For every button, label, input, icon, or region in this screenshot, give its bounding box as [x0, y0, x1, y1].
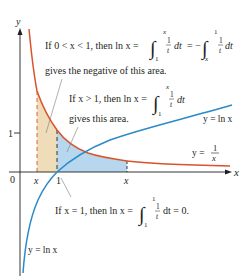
tan-shaded-area: [37, 91, 57, 172]
annotation1-int2-upper: 1: [214, 28, 218, 36]
annotation1-int1-lower: 1: [155, 55, 159, 63]
annotation2-prefix: If x > 1, then ln x =: [69, 93, 147, 104]
annotation1-line2: gives the negative of this area.: [45, 65, 167, 76]
annotation2-int-lower: 1: [158, 110, 162, 118]
annotation1-frac2-den: t: [219, 46, 222, 55]
annotation1-frac-den: t: [167, 46, 170, 55]
log-curve-label-bottom: y = ln x: [28, 245, 58, 255]
annotation3-frac-num: 1: [156, 202, 160, 211]
x-tick-one-label: 1: [56, 175, 61, 186]
annotation2-frac-den: t: [170, 100, 173, 109]
annotation3-suffix: dt = 0.: [163, 205, 189, 216]
origin-label: 0: [10, 174, 15, 185]
annotation-positive-area: If x > 1, then ln x = ∫ x 1 1 t dt gives…: [67, 83, 185, 152]
reciprocal-label-num: 1: [213, 143, 217, 153]
annotation3-frac-den: t: [156, 212, 159, 221]
annotation2-line2: gives this area.: [69, 113, 129, 124]
x-axis-arrow-icon: [225, 170, 232, 175]
annotation1-eq-minus: = −: [187, 40, 201, 51]
reciprocal-label-y: y =: [192, 148, 204, 158]
annotation1-frac-num: 1: [167, 36, 171, 45]
annotation3-int-lower: 1: [144, 221, 148, 229]
annotation2-dt: dt: [177, 94, 185, 105]
ln-area-diagram: y x 0 1 x 1 x y = ln x y = 1 x y = ln x …: [0, 0, 245, 278]
annotation3-pointer: [61, 178, 71, 197]
annotation3-prefix: If x = 1, then ln x =: [55, 205, 133, 216]
log-curve-label-right: y = ln x: [203, 114, 233, 124]
annotation1-dt: dt: [174, 40, 182, 51]
annotation2-frac-num: 1: [170, 90, 174, 99]
annotation1-int1-upper: x: [162, 28, 167, 36]
annotation1-dt2: dt: [225, 40, 233, 51]
x-small-label: x: [33, 175, 39, 186]
annotation-zero-area: If x = 1, then ln x = ∫ 1 1 1 t dt = 0.: [55, 178, 189, 229]
annotation1-frac2-num: 1: [219, 36, 223, 45]
x-large-label: x: [123, 175, 129, 186]
annotation1-prefix: If 0 < x < 1, then ln x =: [45, 40, 139, 51]
y-tick-one-label: 1: [8, 128, 13, 139]
y-axis-arrow-icon: [18, 28, 23, 35]
x-axis-label: x: [233, 166, 239, 178]
y-axis-label: y: [15, 16, 21, 27]
reciprocal-label-den: x: [211, 153, 216, 163]
annotation1-int2-lower: x: [204, 55, 209, 63]
